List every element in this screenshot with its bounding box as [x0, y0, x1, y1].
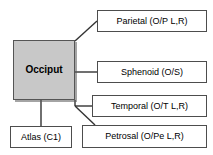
node-petrosal-label: Petrosal (O/Pe L,R) — [105, 132, 184, 141]
node-sphenoid[interactable]: Sphenoid (O/S) — [97, 61, 207, 83]
node-occiput-label: Occiput — [25, 65, 62, 75]
diagram-canvas: Occiput Parietal (O/P L,R) Sphenoid (O/S… — [0, 0, 213, 155]
node-occiput[interactable]: Occiput — [13, 40, 75, 100]
node-parietal-label: Parietal (O/P L,R) — [117, 17, 188, 26]
node-petrosal[interactable]: Petrosal (O/Pe L,R) — [82, 125, 207, 148]
node-temporal[interactable]: Temporal (O/T L,R) — [92, 95, 207, 117]
node-atlas[interactable]: Atlas (C1) — [10, 126, 72, 148]
node-parietal[interactable]: Parietal (O/P L,R) — [97, 10, 207, 32]
node-temporal-label: Temporal (O/T L,R) — [111, 102, 188, 111]
connector-occiput-parietal — [75, 21, 97, 41]
node-atlas-label: Atlas (C1) — [21, 133, 61, 142]
node-sphenoid-label: Sphenoid (O/S) — [121, 68, 183, 77]
